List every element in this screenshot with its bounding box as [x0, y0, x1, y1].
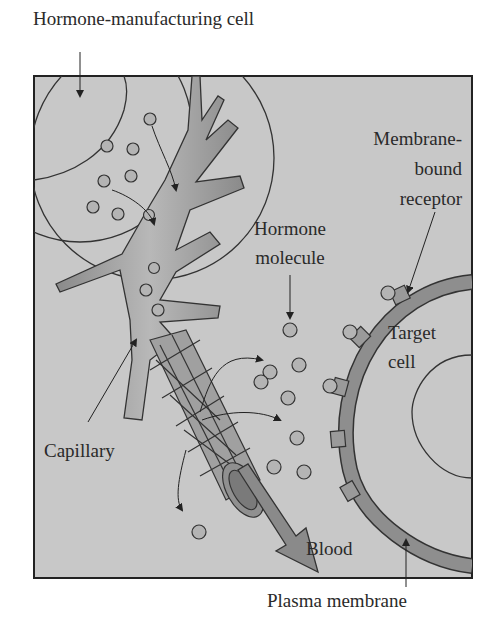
label-molecule-line1: Hormone — [240, 218, 340, 240]
label-blood: Blood — [306, 538, 352, 560]
label-receptor-line2: bound — [348, 158, 462, 180]
label-capillary: Capillary — [44, 440, 115, 462]
label-hormone-molecule: Hormone molecule — [240, 218, 340, 269]
label-plasma-membrane: Plasma membrane — [267, 590, 407, 612]
label-receptor-line1: Membrane- — [348, 128, 462, 150]
label-molecule-line2: molecule — [240, 247, 340, 269]
label-target-line1: Target — [388, 322, 436, 344]
label-receptor-line3: receptor — [348, 188, 462, 210]
endocrine-diagram — [0, 0, 498, 632]
label-membrane-bound-receptor: Membrane- bound receptor — [348, 128, 462, 210]
label-target-cell: Target cell — [388, 322, 436, 373]
label-target-line2: cell — [388, 351, 436, 373]
label-hormone-manufacturing-cell: Hormone-manufacturing cell — [33, 8, 254, 30]
